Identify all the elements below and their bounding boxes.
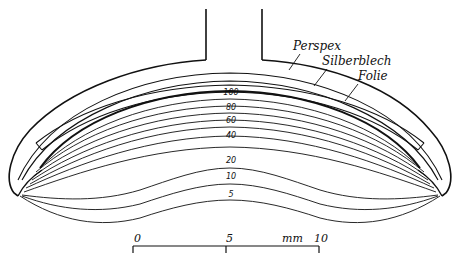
isodose-label-20: 20 bbox=[226, 156, 236, 165]
scale-bar: 0 5 mm 10 bbox=[133, 232, 328, 253]
isodose-labels: 100 80 60 40 20 10 5 bbox=[223, 88, 238, 199]
isodose-label-60: 60 bbox=[226, 116, 236, 125]
label-silberblech: Silberblech bbox=[322, 54, 392, 68]
isodose-label-5: 5 bbox=[228, 190, 233, 199]
isodose-label-80: 80 bbox=[226, 103, 236, 112]
label-folie: Folie bbox=[357, 69, 388, 83]
scale-label-5: 5 bbox=[226, 232, 233, 245]
scale-unit: mm bbox=[282, 232, 303, 245]
isodose-label-10: 10 bbox=[226, 172, 236, 181]
tube-walls bbox=[206, 9, 262, 60]
label-perspex: Perspex bbox=[292, 39, 341, 53]
material-labels: Perspex Silberblech Folie bbox=[289, 39, 392, 101]
isodose-label-40: 40 bbox=[226, 131, 236, 140]
cross-section-diagram: 100 80 60 40 20 10 5 Perspex Silberblech… bbox=[0, 0, 459, 264]
isodose-label-100: 100 bbox=[223, 88, 238, 97]
scale-label-10: 10 bbox=[314, 232, 328, 245]
scale-label-0: 0 bbox=[134, 232, 141, 245]
